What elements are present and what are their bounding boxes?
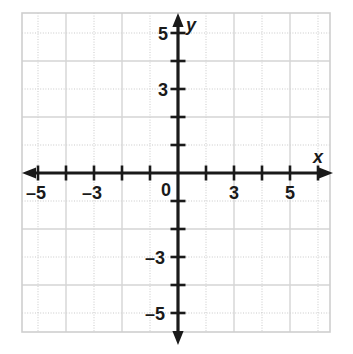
- graph-canvas: [0, 0, 353, 354]
- coordinate-plane: –5 –3 0 3 5 5 3 –3 –5 x y: [0, 0, 353, 354]
- origin-label: 0: [161, 181, 171, 199]
- x-tick-label-pos3: 3: [229, 184, 239, 202]
- x-tick-label-neg3: –3: [82, 184, 102, 202]
- x-tick-label-pos5: 5: [285, 184, 295, 202]
- x-axis-name-label: x: [313, 148, 323, 166]
- y-axis-name-label: y: [186, 16, 196, 34]
- x-tick-label-neg5: –5: [26, 184, 46, 202]
- y-tick-label-neg5: –5: [145, 305, 165, 323]
- y-tick-label-pos3: 3: [158, 81, 168, 99]
- y-tick-label-pos5: 5: [158, 25, 168, 43]
- y-tick-label-neg3: –3: [145, 249, 165, 267]
